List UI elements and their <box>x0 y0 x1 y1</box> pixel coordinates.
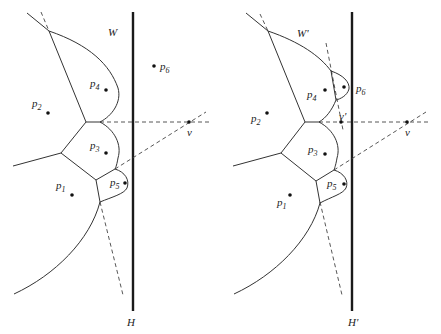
label-p4: p4 <box>89 77 100 92</box>
site-p6 <box>342 85 346 89</box>
site-p4 <box>323 88 327 92</box>
label-p1: p1 <box>276 196 287 211</box>
label-v-prime: v' <box>339 110 347 122</box>
site-p2 <box>265 111 269 115</box>
edge <box>96 180 100 202</box>
left-panel: W H p6 p4 p2 p3 p1 p5 v <box>13 12 211 328</box>
dashed-diagonal <box>115 112 206 169</box>
label-v: v <box>187 126 192 138</box>
label-w-prime: W' <box>297 27 309 39</box>
edge-p3 <box>100 122 119 169</box>
site-p6 <box>152 64 156 68</box>
label-p4: p4 <box>306 88 317 103</box>
site-p3 <box>104 151 108 155</box>
edge <box>61 153 96 180</box>
label-h-prime: H' <box>347 316 359 328</box>
label-h: H <box>126 316 136 328</box>
label-w: W <box>108 26 118 38</box>
label-p5: p5 <box>109 176 120 191</box>
site-p4 <box>104 88 108 92</box>
site-p5 <box>342 182 346 186</box>
label-p2: p2 <box>250 112 261 127</box>
site-p5 <box>123 181 127 185</box>
edge-p3 <box>319 122 338 170</box>
dashed-bottom <box>100 202 123 295</box>
point-v <box>187 120 191 124</box>
label-p2: p2 <box>31 97 42 112</box>
edge-p4-p6 <box>331 71 336 100</box>
site-p1 <box>288 193 292 197</box>
label-p1: p1 <box>55 179 66 194</box>
label-p6: p6 <box>355 82 366 97</box>
edge <box>281 122 305 153</box>
edge-p4-w <box>49 31 119 122</box>
edge <box>246 13 268 31</box>
label-p3: p3 <box>89 139 100 154</box>
point-v <box>405 120 409 124</box>
edge <box>316 181 320 203</box>
site-p3 <box>323 152 327 156</box>
label-p5: p5 <box>326 177 337 192</box>
edge <box>61 122 86 153</box>
edge-p1 <box>234 203 320 294</box>
dashed-diagonal <box>334 112 426 170</box>
edge <box>319 100 336 122</box>
edge <box>13 153 61 166</box>
edge <box>233 153 281 166</box>
right-panel: W' H' p6 p4 p2 p3 p1 p5 v' v <box>233 12 431 328</box>
edge <box>27 13 49 31</box>
edge-p1 <box>14 202 100 294</box>
label-v: v <box>405 126 410 138</box>
dashed-bottom <box>320 202 342 295</box>
site-p2 <box>46 111 50 115</box>
voronoi-diagram: W H p6 p4 p2 p3 p1 p5 v <box>0 0 441 334</box>
label-p6: p6 <box>159 60 170 75</box>
label-p3: p3 <box>307 143 318 158</box>
edge <box>281 153 316 181</box>
site-p1 <box>70 193 74 197</box>
dashed-top <box>260 14 268 31</box>
